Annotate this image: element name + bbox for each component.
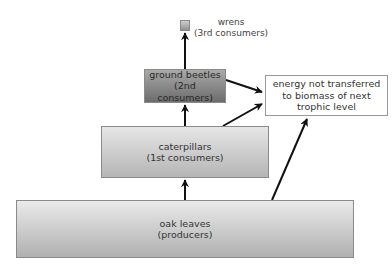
caterpillars-box: caterpillars (1st consumers) bbox=[101, 126, 269, 178]
oak-leaves-box: oak leaves (producers) bbox=[16, 200, 354, 258]
arrow-producers-to-energy bbox=[272, 119, 307, 200]
ground-beetles-box: ground beetles (2nd consumers) bbox=[144, 69, 226, 103]
arrow-c1-to-energy bbox=[223, 104, 262, 126]
wrens-label: wrens (3rd consumers) bbox=[194, 17, 268, 39]
energy-loss-box: energy not transferred to biomass of nex… bbox=[265, 75, 388, 116]
wrens-box bbox=[180, 20, 190, 31]
arrow-c2-to-energy bbox=[226, 80, 262, 92]
